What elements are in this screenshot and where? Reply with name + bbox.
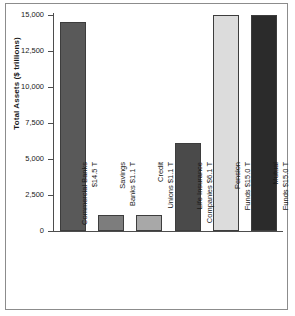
category-label-line1: Pension [233, 162, 242, 189]
category-label: MutualFunds $15.0 T [271, 162, 290, 236]
y-tick-label: 0 [40, 227, 44, 235]
category-label-line1: Mutual [271, 162, 280, 185]
category-label-line2: Banks $1.1 T [128, 162, 138, 236]
y-tick-label: 2,500 [25, 191, 44, 199]
category-label-line2: Companies $6.1 T [204, 162, 214, 236]
y-axis-title: Total Assets ($ trillions) [12, 29, 21, 139]
category-label-line1: Credit [156, 162, 165, 182]
category-label: Life InsuranceCompanies $6.1 T [195, 162, 214, 236]
category-label-line1: Life Insurance [195, 162, 204, 209]
category-label: PensionFunds $15.0 T [233, 162, 252, 236]
y-tick-label: 10,000 [21, 83, 44, 91]
category-label: Commercial Banks$14.5 T [80, 162, 99, 236]
category-label-line2: $14.5 T [90, 162, 100, 236]
y-tick-label: 15,000 [21, 11, 44, 19]
category-label-line2: Funds $15.0 T [242, 162, 252, 236]
category-label-line2: Unions $1.1 T [166, 162, 176, 236]
category-label-line1: Commercial Banks [80, 162, 89, 225]
category-label: SavingsBanks $1.1 T [118, 162, 137, 236]
category-label-line1: Savings [118, 162, 127, 189]
y-tick-label: 12,500 [21, 47, 44, 55]
y-tick-label: 5,000 [25, 155, 44, 163]
bar-chart-figure: Total Assets ($ trillions) 02,5005,0007,… [0, 0, 295, 316]
y-tick-label: 7,500 [25, 119, 44, 127]
category-label-line2: Funds $15.0 T [280, 162, 290, 236]
category-label: CreditUnions $1.1 T [156, 162, 175, 236]
